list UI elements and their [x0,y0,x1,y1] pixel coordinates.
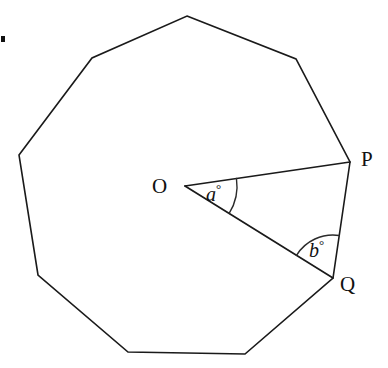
geometry-figure: O P Q a° b° [0,0,388,368]
angle-arc-a [229,179,237,214]
geometry-canvas [0,0,388,368]
vertex-label-q: Q [340,274,355,295]
vertex-label-p: P [361,149,373,170]
angle-symbol-b: b [309,239,319,261]
degree-sign-b: ° [319,237,324,252]
angle-symbol-a: a [206,183,216,205]
angle-label-b: b° [309,238,324,260]
nonagon-outline [19,16,350,354]
vertex-label-o: O [152,176,167,197]
angle-label-a: a° [206,182,221,204]
degree-sign-a: ° [216,181,221,196]
crop-artifact-dot [1,36,5,42]
